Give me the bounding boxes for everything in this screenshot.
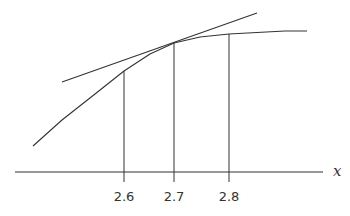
- tangent-line: [62, 13, 257, 82]
- tangent-diagram: 2.6 2.7 2.8 x: [0, 0, 350, 216]
- tick-label-2-8: 2.8: [219, 189, 240, 204]
- tick-label-2-7: 2.7: [164, 189, 185, 204]
- tick-label-2-6: 2.6: [114, 189, 135, 204]
- x-axis-label: x: [333, 162, 342, 180]
- curve: [33, 31, 307, 146]
